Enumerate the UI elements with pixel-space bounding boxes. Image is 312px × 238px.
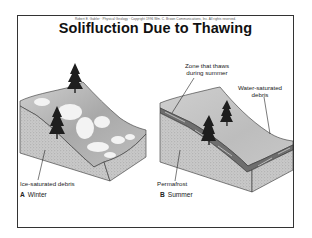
label-permafrost: Permafrost [157, 180, 187, 187]
panel-a-season: Winter [28, 191, 47, 198]
label-zone-thaws: Zone that thaws during summer [170, 62, 244, 76]
label-water-saturated: Water-saturated debris [228, 84, 292, 98]
label-water-line2: debris [228, 91, 292, 98]
panel-b-season: Summer [168, 191, 193, 198]
panel-b-letter: B [160, 191, 165, 198]
panel-a-caption: AWinter [20, 191, 47, 198]
label-zone-line1: Zone that thaws [170, 62, 244, 69]
panel-a-letter: A [20, 191, 25, 198]
winter-block [20, 63, 146, 181]
tree-icon [67, 63, 83, 93]
label-zone-line2: during summer [170, 69, 244, 76]
panel-b-caption: BSummer [160, 191, 193, 198]
label-water-line1: Water-saturated [228, 84, 292, 91]
solifluction-diagram [0, 0, 312, 238]
label-ice-saturated: Ice-saturated debris [20, 180, 75, 187]
